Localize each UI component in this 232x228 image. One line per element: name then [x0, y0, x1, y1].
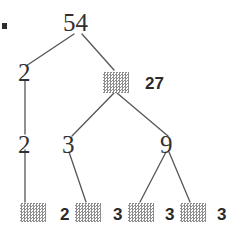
factor-tree-figure: 54 2 27 2 3 9 2 3 3 3 [0, 0, 232, 228]
node-left-2-lower[interactable]: 2 [18, 132, 31, 157]
node-left-2[interactable]: 2 [18, 60, 31, 85]
node-root-54[interactable]: 54 [63, 10, 88, 35]
edge-27-to-9 [117, 93, 168, 136]
edge-9-to-leaf4 [169, 152, 190, 202]
leaf-value-2: 2 [60, 206, 69, 223]
leaf-value-3b: 3 [165, 206, 174, 223]
hidden-factor-block-leaf-3[interactable] [128, 203, 154, 222]
node-mid-3[interactable]: 3 [62, 132, 75, 157]
node-label-27: 27 [145, 75, 164, 92]
edge-root-to-left [26, 34, 74, 66]
hidden-factor-block-leaf-4[interactable] [180, 203, 206, 222]
hidden-factor-block-leaf-2[interactable] [75, 203, 101, 222]
edge-root-to-right [82, 34, 114, 70]
leaf-value-3a: 3 [113, 206, 122, 223]
edge-27-to-3 [72, 93, 114, 136]
hidden-factor-block-27[interactable] [103, 72, 129, 93]
leaf-value-3c: 3 [217, 206, 226, 223]
tree-edge-layer [0, 0, 232, 228]
edge-9-to-leaf3 [140, 152, 166, 202]
node-right-9[interactable]: 9 [160, 132, 173, 157]
hidden-factor-block-leaf-1[interactable] [20, 203, 46, 222]
edge-3-to-leaf2 [69, 152, 86, 202]
